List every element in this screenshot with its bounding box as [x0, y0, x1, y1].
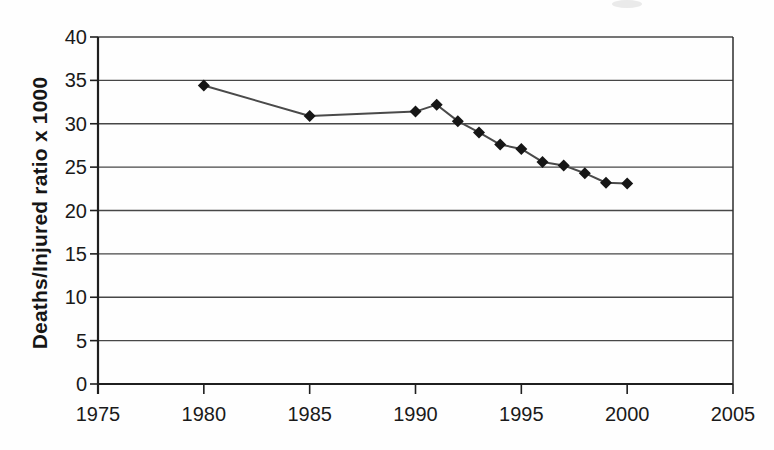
x-tick-label: 1975	[76, 403, 121, 425]
data-point-marker	[537, 156, 549, 168]
data-point-marker	[304, 110, 316, 122]
y-tick-label: 35	[65, 69, 87, 91]
scan-artifact	[612, 0, 642, 8]
data-point-marker	[410, 106, 422, 118]
y-tick-label: 0	[76, 373, 87, 395]
y-tick-label: 10	[65, 286, 87, 308]
data-point-marker	[579, 167, 591, 179]
x-tick-label: 1985	[287, 403, 332, 425]
line-chart-svg: 0510152025303540197519801985199019952000…	[0, 0, 774, 450]
data-point-marker	[621, 178, 633, 190]
x-tick-label: 1980	[182, 403, 227, 425]
y-axis-title: Deaths/Injured ratio x 1000	[28, 77, 52, 350]
chart-figure: 0510152025303540197519801985199019952000…	[0, 0, 774, 450]
data-point-marker	[494, 139, 506, 151]
y-tick-label: 40	[65, 26, 87, 48]
data-point-marker	[600, 177, 612, 189]
data-point-marker	[473, 126, 485, 138]
x-tick-label: 1995	[499, 403, 544, 425]
y-tick-label: 15	[65, 243, 87, 265]
y-tick-label: 30	[65, 113, 87, 135]
y-tick-label: 20	[65, 200, 87, 222]
data-point-marker	[198, 80, 210, 92]
y-tick-label: 25	[65, 156, 87, 178]
data-point-marker	[515, 143, 527, 155]
data-point-marker	[558, 159, 570, 171]
x-tick-label: 2005	[711, 403, 756, 425]
x-tick-label: 2000	[605, 403, 650, 425]
x-tick-label: 1990	[393, 403, 438, 425]
y-tick-label: 5	[76, 330, 87, 352]
